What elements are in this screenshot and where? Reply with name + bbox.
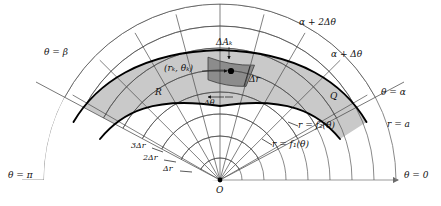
label-theta-alpha: θ = α [381, 88, 406, 97]
label-curve-f1: r = f₁(θ) [272, 140, 309, 149]
label-sample-point: (rₖ, θₖ) [164, 64, 193, 73]
label-region-Q: Q [330, 92, 337, 101]
label-theta-zero: θ = 0 [404, 171, 428, 180]
label-radius-a: r = a [387, 120, 410, 129]
polar-area-diagram: θ = π θ = 0 θ = β θ = α α + Δθ α + 2Δθ r… [0, 0, 441, 206]
label-theta-beta: θ = β [44, 48, 68, 57]
label-theta-pi: θ = π [8, 171, 33, 180]
label-region-R: R [155, 88, 162, 97]
label-alpha-plus-delta-theta: α + Δθ [331, 50, 362, 59]
leader-f2 [288, 122, 298, 126]
label-three-delta-r: 3Δr [131, 142, 146, 150]
diagram-canvas [0, 0, 441, 206]
origin-dot [218, 178, 223, 183]
label-delta-area: ΔAₖ [216, 38, 232, 47]
label-two-delta-r: 2Δr [143, 154, 158, 162]
leader-f1 [262, 139, 272, 145]
label-curve-f2: r = f₂(θ) [298, 121, 335, 130]
label-origin: O [216, 186, 223, 195]
label-delta-r: Δr [249, 75, 260, 84]
label-alpha-plus-2delta-theta: α + 2Δθ [299, 18, 336, 27]
label-delta-theta: Δθ [204, 99, 215, 107]
label-delta-r-axis: Δr [163, 165, 173, 173]
